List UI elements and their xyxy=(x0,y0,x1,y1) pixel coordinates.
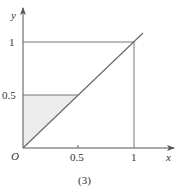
y-axis-label: y xyxy=(10,9,16,21)
origin-label: O xyxy=(11,150,19,162)
probability-diagram: y 1 0.5 O 0.5 1 x (3) xyxy=(0,0,181,192)
figure-caption: (3) xyxy=(78,174,91,187)
x-axis-label: x xyxy=(165,151,171,163)
y-tick-half: 0.5 xyxy=(2,89,16,101)
diagonal-line xyxy=(23,33,143,148)
x-tick-1-label: 1 xyxy=(131,151,137,163)
y-tick-1: 1 xyxy=(9,36,15,48)
x-tick-half-label: 0.5 xyxy=(70,151,84,163)
